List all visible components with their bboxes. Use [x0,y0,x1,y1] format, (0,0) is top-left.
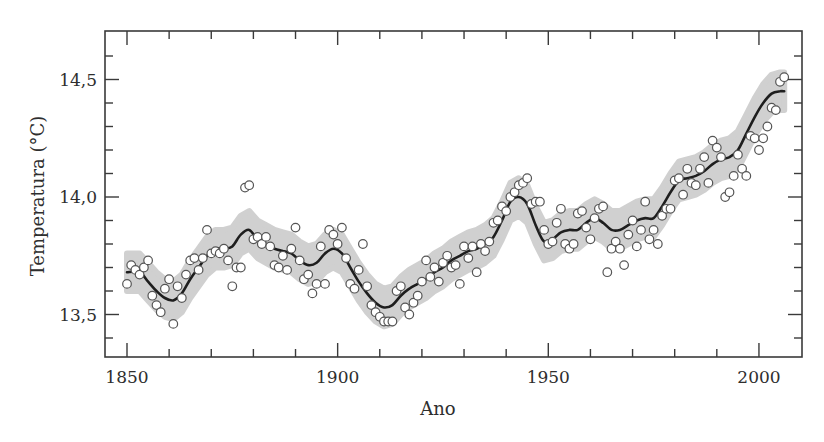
data-point-marker [161,284,170,293]
data-point-marker [295,256,304,265]
data-point-marker [616,244,625,253]
data-point-marker [220,244,229,253]
data-point-marker [540,226,549,235]
data-point-marker [178,294,187,303]
data-point-marker [582,223,591,232]
data-point-marker [308,289,317,298]
data-point-marker [279,252,288,261]
x-tick-label: 1950 [527,367,570,387]
data-point-marker [430,263,439,272]
data-point-marker [456,280,465,289]
data-point-marker [291,223,300,232]
data-point-marker [413,291,422,300]
data-point-marker [363,282,372,291]
data-point-marker [144,256,153,265]
data-point-marker [700,153,709,162]
y-tick-label: 14,0 [59,187,97,207]
data-point-marker [502,207,511,216]
data-point-marker [734,150,743,159]
data-point-marker [696,165,705,174]
data-point-marker [190,254,199,263]
data-point-marker [464,254,473,263]
data-point-marker [245,181,254,190]
data-point-marker [333,240,342,249]
data-point-marker [750,134,759,143]
data-point-marker [557,205,566,214]
data-point-marker [633,242,642,251]
data-point-marker [578,207,587,216]
data-point-marker [628,216,637,225]
x-tick-label: 1900 [316,367,359,387]
data-point-marker [435,277,444,286]
data-point-marker [228,282,237,291]
data-point-marker [274,263,283,272]
data-point-marker [586,235,595,244]
data-point-marker [763,122,772,131]
data-point-marker [237,263,246,272]
data-point-marker [666,205,675,214]
data-point-marker [397,282,406,291]
data-point-marker [675,174,684,183]
x-tick-label: 1850 [105,367,148,387]
data-point-marker [266,242,275,251]
data-point-marker [182,270,191,279]
data-point-marker [426,273,435,282]
data-point-marker [262,233,271,242]
data-point-marker [468,242,477,251]
data-point-marker [645,235,654,244]
data-point-marker [388,317,397,326]
y-axis-title: Temperatura (°C) [27,116,48,277]
data-point-marker [451,261,460,270]
data-point-marker [536,197,545,206]
data-point-marker [354,266,363,275]
data-point-marker [203,226,212,235]
data-point-marker [405,310,414,319]
uncertainty-band-area [127,73,784,327]
data-point-marker [713,143,722,152]
data-point-marker [224,256,233,265]
data-point-marker [460,242,469,251]
y-tick-label: 13,5 [59,305,97,325]
data-point-marker [704,179,713,188]
data-point-marker [443,252,452,261]
data-point-marker [742,172,751,181]
data-point-marker [321,280,330,289]
data-point-marker [304,270,313,279]
x-axis-ticks: 1850190019502000 [105,31,780,387]
data-point-marker [338,223,347,232]
data-point-marker [156,308,165,317]
data-point-marker [418,277,427,286]
data-point-marker [548,237,557,246]
data-point-marker [422,256,431,265]
data-point-marker [493,216,502,225]
data-point-marker [194,266,203,275]
uncertainty-band [127,73,784,327]
y-tick-label: 14,5 [59,70,97,90]
data-point-marker [165,275,174,284]
data-point-marker [780,73,789,82]
data-point-marker [759,134,768,143]
temperature-chart: 1850190019502000 13,514,014,5 Ano Temper… [0,0,824,442]
data-point-marker [173,282,182,291]
data-point-marker [755,146,764,155]
data-point-marker [649,226,658,235]
data-point-marker [692,181,701,190]
data-point-marker [637,226,646,235]
x-tick-label: 2000 [737,367,780,387]
data-point-marker [603,268,612,277]
data-point-marker [148,291,157,300]
data-point-marker [599,202,608,211]
data-point-marker [683,165,692,174]
data-point-marker [283,266,292,275]
data-point-marker [472,268,481,277]
data-point-marker [312,280,321,289]
data-point-marker [679,190,688,199]
data-point-marker [199,254,208,263]
data-point-marker [725,188,734,197]
data-point-marker [342,254,351,263]
x-axis-title: Ano [419,398,455,419]
data-point-marker [772,106,781,115]
data-point-marker [620,261,629,270]
data-point-marker [624,230,633,239]
data-point-marker [569,240,578,249]
